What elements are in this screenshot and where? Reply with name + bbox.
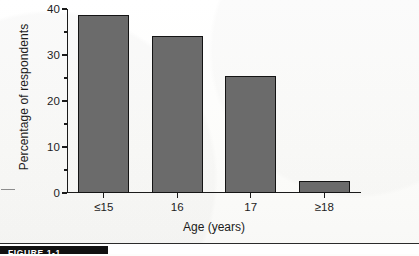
bar [299,181,350,193]
y-tick-major [62,192,67,193]
x-tick-label: ≤15 [94,201,113,213]
figure-caption-tag-text: FIGURE 1-1 [8,248,61,256]
y-tick-minor [64,31,67,32]
y-axis-title-wrapper: Percentage of respondents [19,9,33,193]
x-tick [103,193,104,198]
y-tick-major [62,54,67,55]
bar [152,36,203,193]
y-axis-title: Percentage of respondents [17,5,31,189]
plot-area: 010203040 ≤151617≥18 [67,9,361,193]
y-tick-major [62,8,67,9]
figure-caption-bar: FIGURE 1-1 [0,243,419,254]
y-tick-minor [64,123,67,124]
x-axis-title: Age (years) [67,220,361,234]
y-tick-label: 10 [47,141,60,153]
y-tick-label: 20 [47,95,60,107]
y-tick-minor [64,77,67,78]
y-tick-major [62,100,67,101]
x-tick-label: ≥18 [315,201,334,213]
bar [78,15,129,193]
y-tick-label: 30 [47,49,60,61]
x-tick [177,193,178,198]
y-tick-minor [64,169,67,170]
scan-artifact-mark [1,189,15,190]
bar [225,76,276,193]
x-tick [250,193,251,198]
y-tick-major [62,146,67,147]
y-tick-label: 40 [47,3,60,15]
x-tick-label: 17 [244,201,257,213]
figure-caption-tag: FIGURE 1-1 [0,246,108,255]
y-axis-line [67,9,68,193]
y-tick-label: 0 [54,187,61,199]
x-tick-label: 16 [171,201,184,213]
x-tick [324,193,325,198]
